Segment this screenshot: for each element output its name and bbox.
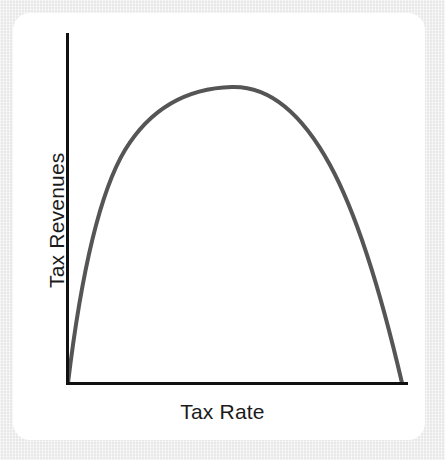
figure-root: Tax Revenues Tax Rate [0, 0, 445, 460]
y-axis-label: Tax Revenues [46, 153, 67, 288]
x-axis-label: Tax Rate [0, 401, 445, 422]
laffer-curve-path [68, 87, 402, 383]
